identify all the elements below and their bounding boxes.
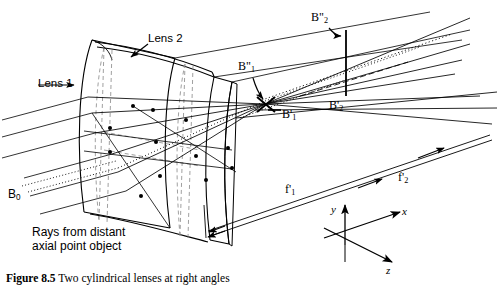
b-prime-2-base: B bbox=[329, 98, 337, 112]
f-prime-2-subscript: 2 bbox=[404, 176, 408, 185]
upper-dotted-ray bbox=[262, 34, 452, 100]
converging-rays-primary bbox=[88, 97, 265, 191]
b0-label: B0 bbox=[8, 188, 21, 202]
figure-optics-diagram: Lens 1 Lens 2 B0 B"1 B'1 B"2 B'2 f'1 f'2… bbox=[0, 0, 499, 294]
b-double-prime-2-base: B bbox=[311, 10, 319, 24]
b-double-prime-1-base: B bbox=[238, 59, 246, 73]
dimension-origin-line bbox=[204, 205, 206, 238]
focal-dimension-line bbox=[208, 135, 492, 236]
f1-right-arrowhead bbox=[418, 148, 444, 158]
f2-left-arrowhead bbox=[358, 179, 382, 188]
b-prime-1-subscript: 1 bbox=[292, 113, 296, 122]
lens-2-hidden-edges bbox=[104, 64, 200, 238]
f-prime-2-label: f'2 bbox=[398, 171, 408, 185]
lens-1-label: Lens 1 bbox=[38, 77, 73, 90]
f-prime-1-subscript: 1 bbox=[291, 188, 295, 197]
rays-caption-line-1: Rays from distant bbox=[32, 226, 125, 239]
b-double-prime-1-subscript: 1 bbox=[251, 65, 255, 74]
figure-caption-text: Two cylindrical lenses at right angles bbox=[58, 272, 229, 284]
figure-caption-prefix: Figure 8.5 bbox=[6, 272, 56, 284]
f1-left-arrowhead-2 bbox=[209, 226, 225, 232]
y-axis-label: y bbox=[331, 203, 336, 215]
lens-2-label: Lens 2 bbox=[148, 32, 183, 45]
b-prime-1-label: B'1 bbox=[282, 108, 296, 122]
b-prime-2-label: B'2 bbox=[329, 99, 343, 113]
f-prime-1-label: f'1 bbox=[285, 183, 295, 197]
b-double-prime-1-pointer bbox=[253, 78, 263, 99]
b-double-prime-2-subscript: 2 bbox=[324, 16, 328, 25]
z-axis-label: z bbox=[386, 264, 390, 276]
lens-reference-lines bbox=[84, 106, 236, 228]
rays-caption-line-2: axial point object bbox=[32, 240, 121, 253]
b-prime-1-base: B bbox=[282, 107, 290, 121]
lens-1-hidden-edges bbox=[95, 48, 112, 224]
b0-subscript: 0 bbox=[16, 193, 21, 202]
b-prime-2-subscript: 2 bbox=[339, 104, 343, 113]
b-double-prime-2-label: B"2 bbox=[311, 11, 328, 25]
b0-base: B bbox=[8, 187, 16, 201]
x-axis-label: x bbox=[402, 205, 407, 217]
b-double-prime-1-label: B"1 bbox=[238, 60, 255, 74]
figure-caption: Figure 8.5 Two cylindrical lenses at rig… bbox=[6, 272, 230, 284]
